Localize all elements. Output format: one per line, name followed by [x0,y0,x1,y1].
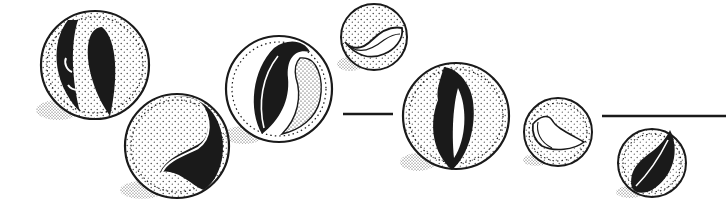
marbles-illustration: Marbles [0,0,726,218]
marble-4 [337,4,407,71]
marbles-canvas [0,0,726,218]
marble-3 [224,36,332,144]
marble-5 [400,63,509,171]
marble-7 [616,129,686,198]
marble-1 [36,11,149,120]
marble-6 [523,98,592,166]
marble-2 [120,94,229,199]
